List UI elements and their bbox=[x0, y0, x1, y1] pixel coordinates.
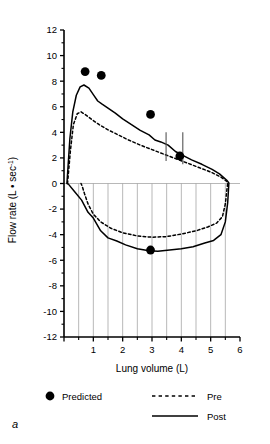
y-tick-label: 4 bbox=[52, 127, 57, 138]
y-tick-label: 10 bbox=[46, 50, 57, 61]
legend-predicted-marker bbox=[46, 392, 55, 401]
predicted-point bbox=[97, 71, 106, 80]
vertical-gridlines bbox=[64, 184, 240, 338]
chart-canvas: 121086420-2-4-6-8-10-12 123456 Lung volu… bbox=[0, 0, 270, 444]
x-tick-label: 1 bbox=[91, 344, 96, 355]
y-tick-label: -12 bbox=[43, 331, 57, 342]
x-axis-title: Lung volume (L) bbox=[116, 363, 188, 374]
legend-post-label: Post bbox=[207, 411, 226, 422]
svg-text:Flow rate (L • sec-1): Flow rate (L • sec-1) bbox=[7, 157, 18, 243]
y-tick-label: -8 bbox=[49, 280, 57, 291]
data-curves bbox=[67, 85, 229, 251]
y-tick-label: 12 bbox=[46, 24, 57, 35]
predicted-point bbox=[81, 67, 90, 76]
curve-post bbox=[67, 85, 229, 251]
x-tick-label: 4 bbox=[179, 344, 184, 355]
legend-pre-label: Pre bbox=[207, 391, 222, 402]
y-tick-label: -2 bbox=[49, 203, 57, 214]
x-tick-label: 6 bbox=[237, 344, 242, 355]
curve-pre bbox=[68, 112, 228, 237]
predicted-point bbox=[175, 152, 184, 161]
x-tick-label: 2 bbox=[120, 344, 125, 355]
plot-area: 121086420-2-4-6-8-10-12 123456 bbox=[43, 24, 242, 355]
panel-label: a bbox=[12, 418, 18, 430]
y-tick-label: -10 bbox=[43, 306, 57, 317]
legend-predicted-label: Predicted bbox=[62, 391, 102, 402]
y-tick-label: -4 bbox=[49, 229, 57, 240]
predicted-point bbox=[146, 246, 155, 255]
predicted-point bbox=[146, 110, 155, 119]
y-tick-label: 8 bbox=[52, 76, 57, 87]
y-axis-tick-labels: 121086420-2-4-6-8-10-12 bbox=[43, 24, 57, 342]
x-tick-label: 5 bbox=[208, 344, 213, 355]
flow-volume-loop-figure: 121086420-2-4-6-8-10-12 123456 Lung volu… bbox=[0, 0, 270, 444]
y-tick-label: 6 bbox=[52, 101, 57, 112]
y-axis-title: Flow rate (L • sec-1) bbox=[7, 157, 18, 243]
y-tick-label: 0 bbox=[52, 178, 57, 189]
x-tick-label: 3 bbox=[149, 344, 154, 355]
svg-text:Lung volume (L): Lung volume (L) bbox=[116, 363, 188, 374]
y-tick-label: 2 bbox=[52, 152, 57, 163]
legend: Predicted Pre Post bbox=[46, 391, 227, 422]
y-tick-label: -6 bbox=[49, 255, 57, 266]
x-axis-tick-labels: 123456 bbox=[91, 344, 243, 355]
predicted-points bbox=[81, 67, 185, 254]
